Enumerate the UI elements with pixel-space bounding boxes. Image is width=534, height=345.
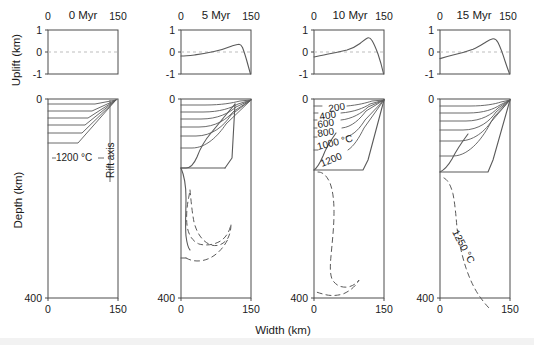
- depth-frame-5myr: [181, 99, 251, 298]
- uplift-axis-title: Uplift (km): [10, 34, 22, 87]
- isotherm-800-5myr: [181, 100, 251, 127]
- xtick-right-0myr: 150: [109, 10, 127, 22]
- uplift-curve-15myr: [440, 39, 510, 74]
- panel-title-15myr: 15 Myr: [456, 9, 491, 21]
- depth-xtick-left-5myr: 0: [178, 303, 184, 315]
- xtick-left-15myr: 0: [437, 10, 443, 22]
- depth-xtick-left-10myr: 0: [311, 303, 317, 315]
- isotherm-1200-left-5myr: [181, 168, 190, 250]
- width-axis-title: Width (km): [255, 324, 311, 336]
- ytick-0-10myr: 0: [302, 46, 308, 58]
- uplift-frame-10myr: [314, 30, 384, 74]
- xtick-right-5myr: 150: [242, 10, 260, 22]
- depth-xtick-right-5myr: 150: [242, 303, 260, 315]
- uplift-curve-5myr: [181, 44, 251, 74]
- depth-frame-0myr: [48, 99, 118, 298]
- isotherm-1250-10myr: [314, 172, 359, 296]
- depth-panel-10myr: 0 400 0 150 200 400 600 800 1000 °C 1200: [290, 93, 392, 315]
- ytick-0-15myr: 0: [428, 46, 434, 58]
- uplift-frame-15myr: [440, 30, 510, 74]
- isotherm-200-0myr: [48, 100, 116, 104]
- ytick-1-10myr: 1: [302, 24, 308, 36]
- panel-title-5myr: 5 Myr: [202, 9, 231, 21]
- uplift-panel-10myr: 10 Myr 0 150 1 0 -1: [299, 9, 393, 80]
- isotherm-1200-label-0myr: 1200 °C: [56, 152, 92, 163]
- depth-ytick-0-15myr: 0: [428, 93, 434, 105]
- ytick-0-0myr: 0: [36, 46, 42, 58]
- depth-ytick-0-10myr: 0: [302, 93, 308, 105]
- rift-axis-label: Rift axis: [105, 142, 116, 178]
- depth-ytick-400-5myr: 400: [157, 292, 175, 304]
- depth-ytick-0-0myr: 0: [36, 93, 42, 105]
- xtick-left-5myr: 0: [178, 10, 184, 22]
- isotherm-1250-5myr: [187, 190, 231, 246]
- ytick-1-5myr: 1: [169, 24, 175, 36]
- uplift-frame-5myr: [181, 30, 251, 74]
- uplift-frame-0myr: [48, 30, 118, 74]
- depth-xtick-left-15myr: 0: [437, 303, 443, 315]
- uplift-curve-10myr: [314, 38, 384, 74]
- ytick-0-5myr: 0: [169, 46, 175, 58]
- depth-panel-15myr: 0 400 0 150 1250 °C: [416, 93, 518, 315]
- ytick-neg1-5myr: -1: [166, 68, 175, 80]
- ytick-neg1-15myr: -1: [425, 68, 434, 80]
- panel-title-10myr: 10 Myr: [332, 9, 367, 21]
- depth-xtick-right-0myr: 150: [109, 303, 127, 315]
- xtick-right-10myr: 150: [375, 10, 393, 22]
- ytick-neg1-0myr: -1: [33, 68, 42, 80]
- depth-frame-15myr: [440, 99, 510, 298]
- uplift-panel-5myr: 5 Myr 0 150 1 0 -1: [166, 9, 260, 80]
- depth-ytick-0-5myr: 0: [169, 93, 175, 105]
- ytick-1-15myr: 1: [428, 24, 434, 36]
- ytick-neg1-10myr: -1: [299, 68, 308, 80]
- depth-xtick-left-0myr: 0: [45, 303, 51, 315]
- xtick-left-0myr: 0: [45, 10, 51, 22]
- xtick-right-15myr: 150: [499, 10, 517, 22]
- depth-axis-title: Depth (km): [12, 171, 24, 228]
- rift-evolution-figure: Uplift (km) 0 Myr 0 150 1 0 -1 5 Myr 0 1…: [0, 0, 534, 345]
- uplift-panel-0myr: 0 Myr 0 150 1 0 -1: [33, 9, 127, 80]
- depth-xtick-right-10myr: 150: [375, 303, 393, 315]
- depth-panel-0myr: 0 400 0 150 1200 °C Rift axis: [24, 93, 126, 315]
- bottom-strip: [0, 338, 534, 345]
- isotherm-600-0myr: [48, 100, 116, 118]
- panel-title-0myr: 0 Myr: [69, 9, 98, 21]
- xtick-left-10myr: 0: [311, 10, 317, 22]
- isotherm-800-15myr: [440, 100, 510, 130]
- depth-panel-5myr: 0 400 0 150: [157, 93, 259, 315]
- isotherm-1250-tail-5myr: [186, 239, 228, 261]
- uplift-panel-15myr: 15 Myr 0 150 1 0 -1: [425, 9, 517, 80]
- depth-ytick-400-10myr: 400: [290, 292, 308, 304]
- isotherm-label-1200-10myr: 1200: [319, 150, 344, 169]
- depth-ytick-400-15myr: 400: [416, 292, 434, 304]
- ytick-1-0myr: 1: [36, 24, 42, 36]
- isotherm-200-5myr: [181, 100, 251, 105]
- depth-ytick-400-0myr: 400: [24, 292, 42, 304]
- depth-xtick-right-15myr: 150: [501, 303, 519, 315]
